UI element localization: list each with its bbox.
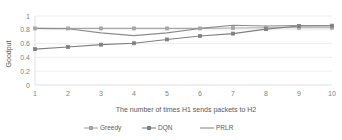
legend-label-prlr: PRLR: [216, 124, 234, 131]
line-chart: 00.20.40.60.81 12345678910 GreedyDQNPRLR…: [0, 0, 342, 140]
y-axis-tick-label: 0.6: [20, 40, 30, 47]
y-axis-tick-label: 0.2: [20, 68, 30, 75]
data-point-dqn: [298, 25, 301, 28]
x-axis-tick-label: 5: [165, 90, 169, 97]
x-axis-tick-label: 9: [297, 90, 301, 97]
data-point-dqn: [232, 32, 235, 35]
x-axis-tick-label: 1: [33, 90, 37, 97]
x-axis-tick-label: 2: [66, 90, 70, 97]
data-point-dqn: [265, 28, 268, 31]
x-axis-tick-label: 6: [198, 90, 202, 97]
legend-label-dqn: DQN: [158, 124, 173, 132]
x-axis-tick-label: 3: [99, 90, 103, 97]
data-point-dqn: [331, 24, 334, 27]
series-line-greedy: [35, 28, 332, 29]
x-axis-tick-label: 7: [231, 90, 235, 97]
data-point-greedy: [232, 27, 235, 30]
y-axis-tick-label: 1: [26, 13, 30, 20]
data-point-greedy: [34, 27, 37, 30]
legend-label-greedy: Greedy: [100, 124, 122, 132]
data-point-dqn: [67, 46, 70, 49]
data-point-greedy: [67, 27, 70, 30]
data-point-dqn: [133, 42, 136, 45]
data-point-dqn: [34, 48, 37, 51]
data-point-dqn: [199, 35, 202, 38]
data-point-greedy: [199, 27, 202, 30]
data-point-greedy: [100, 27, 103, 30]
x-axis-tick-label: 8: [264, 90, 268, 97]
data-point-dqn: [100, 43, 103, 46]
legend-marker-dqn: [148, 127, 151, 130]
x-axis-tick-label: 4: [132, 90, 136, 97]
data-point-dqn: [166, 38, 169, 41]
y-axis-tick-label: 0.8: [20, 26, 30, 33]
x-axis-title: The number of times H1 sends packets to …: [116, 106, 257, 114]
x-axis-tick-label: 10: [328, 90, 336, 97]
x-axis-tick-labels: 12345678910: [33, 90, 336, 97]
series-line-dqn: [35, 26, 332, 49]
gridlines: [35, 16, 332, 85]
y-axis-tick-label: 0.4: [20, 54, 30, 61]
legend-marker-greedy: [90, 127, 93, 130]
y-axis-title: Goodput: [5, 41, 13, 68]
y-axis-tick-labels: 00.20.40.60.81: [20, 13, 30, 89]
data-point-greedy: [166, 27, 169, 30]
chart-canvas: 00.20.40.60.81 12345678910 GreedyDQNPRLR…: [0, 0, 342, 140]
y-axis-tick-label: 0: [26, 82, 30, 89]
data-point-greedy: [133, 27, 136, 30]
chart-legend: GreedyDQNPRLR: [84, 124, 234, 132]
data-series: [35, 25, 332, 49]
